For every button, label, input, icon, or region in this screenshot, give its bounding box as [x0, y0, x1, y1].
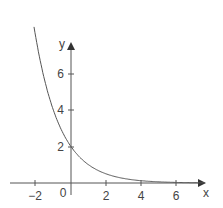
x-tick-label: 4 — [138, 189, 145, 203]
y-tick-label: 6 — [57, 67, 64, 81]
x-tick-label: 2 — [103, 189, 110, 203]
y-tick-label: 4 — [57, 103, 64, 117]
x-tick-label: 6 — [173, 189, 180, 203]
y-axis-label: y — [59, 37, 65, 51]
x-tick-label: −2 — [28, 189, 42, 203]
x-axis-label: x — [203, 186, 209, 200]
y-tick-label: 2 — [57, 140, 64, 154]
exponential-chart: −2 0 2 4 6 x 2 4 6 y — [0, 0, 223, 208]
origin-label: 0 — [60, 186, 67, 200]
